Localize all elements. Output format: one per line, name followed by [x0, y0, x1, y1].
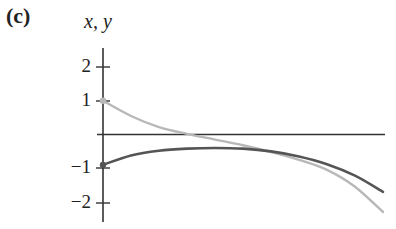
y-initial-point: [100, 162, 106, 168]
plot-area: [0, 0, 396, 229]
x-initial-point: [100, 98, 106, 104]
y-curve: [103, 148, 383, 192]
x-curve: [103, 101, 383, 212]
series-layer: [100, 98, 383, 212]
axes: [96, 48, 385, 222]
